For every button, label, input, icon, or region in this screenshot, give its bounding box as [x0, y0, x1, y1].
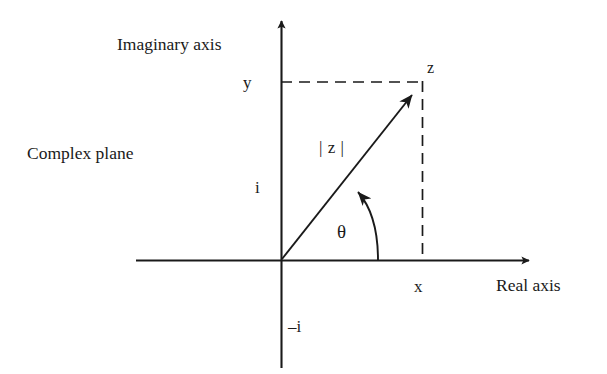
complex-plane-label: Complex plane — [27, 145, 133, 163]
imaginary-axis-label: Imaginary axis — [117, 36, 221, 54]
z-point-label: z — [427, 60, 434, 76]
y-tick-label: y — [243, 74, 252, 91]
real-axis-label: Real axis — [496, 277, 561, 295]
theta-angle-label: θ — [337, 222, 346, 241]
modulus-label: | z | — [319, 139, 344, 156]
negative-i-tick-label: –i — [288, 318, 301, 335]
angle-arc-theta — [358, 192, 378, 260]
modulus-vector — [282, 95, 412, 259]
i-tick-label: i — [255, 179, 260, 196]
complex-plane-figure: Imaginary axis Complex plane Real axis y… — [0, 0, 607, 374]
x-tick-label: x — [414, 278, 423, 295]
complex-plane-diagram — [0, 0, 607, 374]
